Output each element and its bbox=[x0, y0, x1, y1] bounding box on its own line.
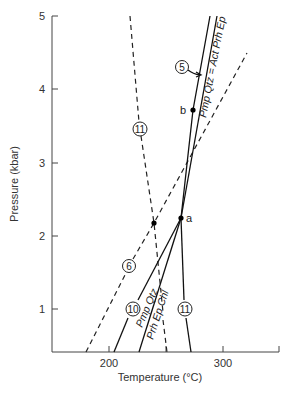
svg-text:6: 6 bbox=[126, 261, 132, 272]
x-tick-label-200: 200 bbox=[100, 357, 118, 369]
circled-label-6: 6 bbox=[123, 260, 136, 273]
curve-11-solid-upper bbox=[181, 218, 184, 300]
svg-text:5: 5 bbox=[179, 62, 185, 73]
circled-label-11-upper: 11 bbox=[133, 122, 147, 136]
y-axis-title: Pressure (kbar) bbox=[8, 146, 20, 222]
diagram-canvas: 5 4 3 2 1 200 300 Temperature (°C) Press… bbox=[0, 0, 289, 393]
circled-label-5: 5 bbox=[176, 61, 189, 74]
y-tick-label-1: 1 bbox=[39, 303, 45, 315]
circled-label-11-lower: 11 bbox=[178, 302, 192, 316]
label-5-arrow bbox=[188, 70, 200, 75]
curve-6-dashed-upper bbox=[133, 53, 247, 259]
point-b-label: b bbox=[180, 104, 186, 116]
curve-11-dashed-upper bbox=[130, 16, 139, 122]
point-invariant-dashed bbox=[151, 220, 156, 225]
x-tick-label-300: 300 bbox=[214, 357, 232, 369]
curve-10-lower bbox=[114, 318, 128, 352]
curve-11-solid-lower bbox=[186, 318, 191, 352]
x-axis-title: Temperature (°C) bbox=[118, 371, 202, 383]
point-a-label: a bbox=[186, 212, 193, 224]
y-tick-label-3: 3 bbox=[39, 157, 45, 169]
phase-diagram: 5 4 3 2 1 200 300 Temperature (°C) Press… bbox=[0, 0, 289, 393]
svg-text:11: 11 bbox=[135, 124, 146, 135]
svg-text:11: 11 bbox=[180, 304, 191, 315]
point-a bbox=[178, 215, 183, 220]
y-tick-label-2: 2 bbox=[39, 230, 45, 242]
curve-6-dashed-lower bbox=[86, 273, 126, 352]
y-tick-label-4: 4 bbox=[39, 83, 45, 95]
curve-11-dashed-tail bbox=[163, 320, 167, 352]
point-b bbox=[190, 107, 195, 112]
y-tick-label-5: 5 bbox=[39, 10, 45, 22]
